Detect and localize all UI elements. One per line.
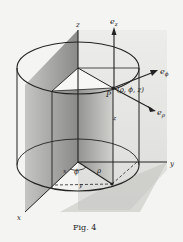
base-y-label: y bbox=[78, 181, 83, 189]
phi-label: ϕ bbox=[74, 168, 79, 176]
figure-caption: Fig. 4 bbox=[73, 223, 96, 232]
point-coords-label: (ρ, ϕ, z) bbox=[117, 86, 144, 94]
y-axis-label: y bbox=[169, 160, 175, 168]
cylindrical-coordinates-diagram: z ez eϕ eρ P (ρ, ϕ, z) z y x x ϕ ρ y Fig… bbox=[0, 0, 183, 242]
point-p-label: P bbox=[105, 90, 112, 99]
ez-label: ez bbox=[110, 17, 118, 27]
ephi-label: eϕ bbox=[160, 67, 169, 78]
z-axis-label: z bbox=[75, 21, 80, 29]
point-p bbox=[111, 86, 114, 89]
x-axis-label: x bbox=[17, 214, 21, 222]
rho-label: ρ bbox=[96, 167, 102, 175]
